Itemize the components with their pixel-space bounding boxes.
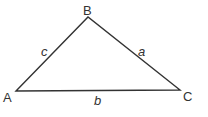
triangle-diagram: A B C c a b bbox=[0, 0, 208, 117]
vertex-label-c: C bbox=[183, 89, 192, 104]
vertex-label-a: A bbox=[3, 90, 12, 105]
side-label-c: c bbox=[41, 44, 48, 59]
side-label-b: b bbox=[94, 93, 101, 108]
side-label-a: a bbox=[138, 44, 145, 59]
vertex-label-b: B bbox=[83, 3, 92, 18]
